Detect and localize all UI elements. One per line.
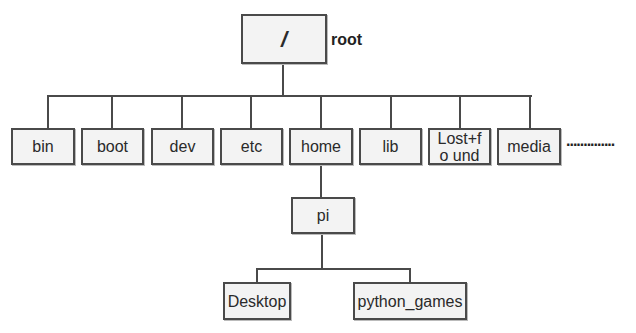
dir-label: etc (241, 138, 262, 155)
dir-node-lostfound: Lost+fo und (428, 128, 491, 165)
stem-home (320, 95, 322, 129)
pi-stem (321, 233, 323, 270)
dir-node-python-games: python_games (353, 282, 467, 320)
dir-label: home (301, 138, 341, 155)
dir-label: Desktop (228, 293, 287, 310)
dir-label: Lost+fo und (434, 130, 486, 164)
dir-node-desktop: Desktop (223, 282, 291, 320)
stem-desktop (256, 268, 258, 283)
root-dir-node: / (241, 14, 327, 64)
dir-node-lib: lib (359, 128, 422, 165)
stem-lib (390, 95, 392, 129)
dir-node-home: home (289, 128, 353, 165)
stem-lostfound (459, 95, 461, 129)
dir-node-dev: dev (151, 128, 214, 165)
dir-label: bin (32, 138, 53, 155)
dir-label: boot (97, 138, 128, 155)
dir-label: media (507, 138, 551, 155)
dir-label: pi (317, 207, 329, 224)
dir-node-bin: bin (11, 128, 75, 165)
stem-media (529, 95, 531, 129)
root-dir-label: / (281, 31, 287, 48)
root-caption: root (331, 31, 362, 49)
pi-bus (256, 268, 411, 270)
stem-dev (181, 95, 183, 129)
dir-label: dev (170, 138, 196, 155)
dir-node-etc: etc (220, 128, 283, 165)
root-stem (282, 63, 284, 97)
stem-bin (47, 95, 49, 129)
stem-python-games (409, 268, 411, 283)
home-to-pi (320, 164, 322, 198)
dir-node-pi: pi (291, 197, 355, 234)
stem-boot (111, 95, 113, 129)
dir-label: python_games (358, 293, 463, 310)
stem-etc (250, 95, 252, 129)
dir-node-media: media (497, 128, 561, 165)
dir-node-boot: boot (81, 128, 144, 165)
more-dirs-ellipsis: .............. (566, 132, 614, 150)
dir-label: lib (382, 138, 398, 155)
